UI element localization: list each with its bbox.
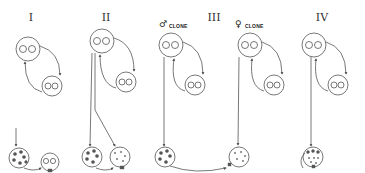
panel-ii [82,29,136,170]
panel-i [9,37,62,171]
panel-iv [301,33,348,168]
cell-lineage-diagram [0,0,365,173]
panel-iii-female [229,33,284,167]
